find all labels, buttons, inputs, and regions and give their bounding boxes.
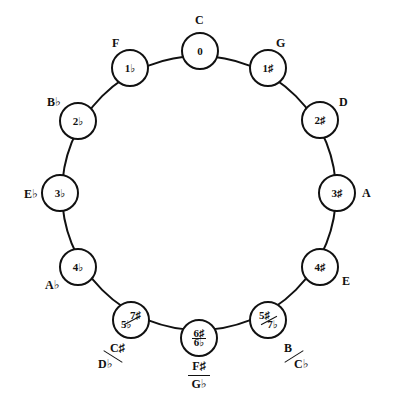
key-label-bb: B♭ (47, 96, 61, 108)
key-label-g: G (276, 37, 285, 49)
signature-bb: 2♭ (73, 116, 84, 127)
key-label-csharp-db: C♯ D♭ (98, 342, 134, 376)
key-label-b: B (284, 342, 292, 354)
signature-db: 5♭ (114, 318, 148, 331)
node-c: 0 (181, 32, 219, 70)
node-csharp-db: 7♯ 5♭ (112, 301, 150, 339)
key-label-cb: C♭ (294, 358, 308, 370)
signature-eb: 3♭ (55, 188, 66, 199)
signature-ab: 4♭ (73, 262, 84, 273)
node-d: 2♯ (301, 101, 339, 139)
signature-a: 3♯ (332, 188, 343, 199)
key-label-c: C (195, 14, 204, 26)
key-label-eb: E♭ (24, 188, 38, 200)
key-label-db: D♭ (98, 358, 112, 370)
key-bar (188, 375, 210, 376)
signature-c: 0 (197, 46, 203, 57)
node-e: 4♯ (301, 248, 339, 286)
key-label-b-cb: B C♭ (280, 342, 316, 376)
circle-ring (61, 55, 337, 331)
key-label-f: F (112, 37, 119, 49)
signature-gb: 6♭ (182, 336, 216, 349)
key-label-gb: G♭ (184, 378, 214, 390)
key-label-d: D (339, 96, 348, 108)
signature-g: 1♯ (263, 63, 274, 74)
node-f: 1♭ (111, 49, 149, 87)
node-bb: 2♭ (59, 102, 97, 140)
key-label-e: E (342, 275, 350, 287)
signature-cb: 7♭ (251, 318, 285, 331)
key-label-csharp: C♯ (110, 342, 125, 354)
node-eb: 3♭ (41, 174, 79, 212)
node-a: 3♯ (318, 174, 356, 212)
node-ab: 4♭ (59, 248, 97, 286)
key-label-ab: A♭ (45, 279, 59, 291)
key-label-a: A (362, 187, 371, 199)
node-fsharp-gb: 6♯ 6♭ (180, 319, 218, 357)
key-label-fsharp-gb: F♯ G♭ (184, 360, 214, 394)
signature-d: 2♯ (315, 115, 326, 126)
circle-of-fifths-diagram: C 0 G 1♯ D 2♯ A 3♯ E 4♯ 5♯ 7♭ B C♭ 6♯ (0, 0, 395, 403)
node-g: 1♯ (249, 49, 287, 87)
node-b-cb: 5♯ 7♭ (249, 301, 287, 339)
signature-e: 4♯ (315, 262, 326, 273)
key-label-fsharp: F♯ (184, 360, 214, 372)
signature-f: 1♭ (125, 63, 136, 74)
